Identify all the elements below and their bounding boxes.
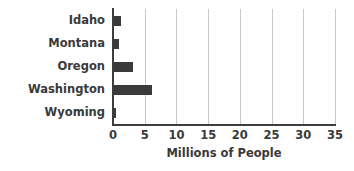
bar-chart: IdahoMontanaOregonWashingtonWyoming 0510…	[0, 0, 354, 171]
x-axis-line	[112, 124, 336, 126]
y-axis-label-washington: Washington	[28, 82, 105, 96]
x-tick-label-10: 10	[161, 128, 191, 142]
x-axis-title: Millions of People	[113, 146, 335, 160]
gridline	[272, 9, 273, 124]
bar-idaho	[113, 16, 121, 26]
x-tick-label-5: 5	[130, 128, 160, 142]
x-tick-label-35: 35	[320, 128, 350, 142]
y-axis-label-oregon: Oregon	[57, 59, 105, 73]
gridline	[208, 9, 209, 124]
y-axis-label-wyoming: Wyoming	[45, 105, 105, 119]
y-axis-label-montana: Montana	[48, 36, 105, 50]
x-tick-label-30: 30	[288, 128, 318, 142]
x-tick-label-15: 15	[193, 128, 223, 142]
y-axis-category-labels: IdahoMontanaOregonWashingtonWyoming	[0, 8, 109, 123]
bar-washington	[113, 85, 152, 95]
x-tick-label-25: 25	[257, 128, 287, 142]
gridline	[176, 9, 177, 124]
y-axis-line	[112, 8, 114, 125]
x-axis-tick-labels: 05101520253035	[0, 128, 354, 144]
gridline	[145, 9, 146, 124]
bar-oregon	[113, 62, 133, 72]
gridline	[240, 9, 241, 124]
plot-area	[113, 9, 335, 124]
y-axis-label-idaho: Idaho	[69, 13, 105, 27]
x-tick-label-0: 0	[98, 128, 128, 142]
x-tick-label-20: 20	[225, 128, 255, 142]
gridline	[303, 9, 304, 124]
gridline	[335, 9, 336, 124]
